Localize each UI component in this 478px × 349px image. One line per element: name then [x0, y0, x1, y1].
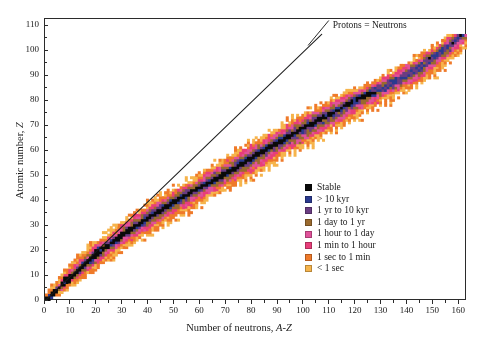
legend-item: Stable — [305, 182, 376, 194]
y-tick-label: 90 — [13, 70, 39, 79]
y-tick-mark — [44, 75, 48, 76]
x-tick-mark — [458, 300, 459, 304]
legend-color-swatch — [305, 242, 312, 249]
x-tick-mark — [302, 300, 303, 304]
x-axis-title-plain: Number of neutrons, — [186, 322, 276, 333]
x-minor-tick-mark — [160, 300, 161, 303]
y-tick-mark — [44, 275, 48, 276]
y-tick-mark — [44, 50, 48, 51]
x-tick-mark — [380, 300, 381, 304]
legend-item: < 1 sec — [305, 263, 376, 275]
x-minor-tick-mark — [264, 300, 265, 303]
x-tick-mark — [406, 300, 407, 304]
x-tick-mark — [225, 300, 226, 304]
x-axis-title-symbol: A-Z — [276, 322, 292, 333]
y-tick-mark — [44, 200, 48, 201]
y-minor-tick-mark — [44, 137, 47, 138]
x-minor-tick-mark — [186, 300, 187, 303]
x-tick-mark — [69, 300, 70, 304]
legend-item: 1 sec to 1 min — [305, 252, 376, 264]
y-axis-title-plain: Atomic number, — [14, 128, 25, 199]
legend-item-label: 1 sec to 1 min — [317, 253, 370, 263]
nuclide-chart-figure: 0102030405060708090100110 01020304050607… — [0, 0, 478, 349]
x-minor-tick-mark — [393, 300, 394, 303]
x-tick-mark — [44, 300, 45, 304]
y-tick-mark — [44, 175, 48, 176]
legend-item: 1 yr to 10 kyr — [305, 205, 376, 217]
plot-frame — [44, 18, 466, 300]
y-minor-tick-mark — [44, 112, 47, 113]
x-tick-mark — [147, 300, 148, 304]
x-tick-label: 160 — [443, 306, 473, 315]
y-minor-tick-mark — [44, 212, 47, 213]
y-tick-label: 20 — [13, 245, 39, 254]
x-minor-tick-mark — [108, 300, 109, 303]
x-tick-mark — [121, 300, 122, 304]
x-minor-tick-mark — [341, 300, 342, 303]
y-tick-label: 80 — [13, 95, 39, 104]
x-tick-mark — [328, 300, 329, 304]
legend-color-swatch — [305, 265, 312, 272]
nuclide-heatmap-canvas — [45, 19, 467, 301]
y-tick-label: 30 — [13, 220, 39, 229]
y-minor-tick-mark — [44, 187, 47, 188]
legend-item: 1 day to 1 yr — [305, 217, 376, 229]
y-axis-title: Atomic number, Z — [14, 122, 25, 199]
legend-color-swatch — [305, 219, 312, 226]
x-minor-tick-mark — [56, 300, 57, 303]
y-minor-tick-mark — [44, 62, 47, 63]
x-minor-tick-mark — [445, 300, 446, 303]
x-minor-tick-mark — [419, 300, 420, 303]
y-minor-tick-mark — [44, 37, 47, 38]
y-tick-mark — [44, 300, 48, 301]
y-tick-mark — [44, 100, 48, 101]
y-tick-label: 10 — [13, 270, 39, 279]
y-minor-tick-mark — [44, 87, 47, 88]
legend-item: 1 hour to 1 day — [305, 228, 376, 240]
y-minor-tick-mark — [44, 262, 47, 263]
y-tick-mark — [44, 125, 48, 126]
x-minor-tick-mark — [315, 300, 316, 303]
y-tick-label: 110 — [13, 20, 39, 29]
legend-item: 1 min to 1 hour — [305, 240, 376, 252]
y-tick-mark — [44, 150, 48, 151]
legend-item-label: 1 min to 1 hour — [317, 241, 376, 251]
x-minor-tick-mark — [212, 300, 213, 303]
x-minor-tick-mark — [289, 300, 290, 303]
protons-equals-neutrons-label: Protons = Neutrons — [333, 20, 407, 30]
legend-color-swatch — [305, 196, 312, 203]
legend-item-label: > 10 kyr — [317, 195, 349, 205]
legend-color-swatch — [305, 184, 312, 191]
legend-color-swatch — [305, 207, 312, 214]
y-minor-tick-mark — [44, 237, 47, 238]
y-minor-tick-mark — [44, 287, 47, 288]
y-tick-mark — [44, 25, 48, 26]
x-minor-tick-mark — [82, 300, 83, 303]
y-minor-tick-mark — [44, 162, 47, 163]
x-tick-mark — [173, 300, 174, 304]
y-tick-mark — [44, 250, 48, 251]
x-minor-tick-mark — [238, 300, 239, 303]
x-minor-tick-mark — [367, 300, 368, 303]
legend-item-label: Stable — [317, 183, 341, 193]
x-axis-title: Number of neutrons, A-Z — [0, 322, 478, 333]
y-tick-mark — [44, 225, 48, 226]
legend-item-label: 1 hour to 1 day — [317, 229, 375, 239]
y-tick-label: 0 — [13, 295, 39, 304]
y-axis-title-symbol: Z — [14, 122, 25, 128]
legend-item-label: 1 yr to 10 kyr — [317, 206, 369, 216]
legend-item: > 10 kyr — [305, 194, 376, 206]
x-minor-tick-mark — [134, 300, 135, 303]
x-tick-mark — [277, 300, 278, 304]
x-tick-mark — [95, 300, 96, 304]
legend: Stable> 10 kyr1 yr to 10 kyr1 day to 1 y… — [305, 182, 376, 275]
legend-item-label: 1 day to 1 yr — [317, 218, 365, 228]
y-tick-label: 100 — [13, 45, 39, 54]
legend-color-swatch — [305, 254, 312, 261]
legend-item-label: < 1 sec — [317, 264, 344, 274]
x-tick-mark — [432, 300, 433, 304]
x-tick-mark — [251, 300, 252, 304]
legend-color-swatch — [305, 231, 312, 238]
x-tick-mark — [199, 300, 200, 304]
x-tick-mark — [354, 300, 355, 304]
